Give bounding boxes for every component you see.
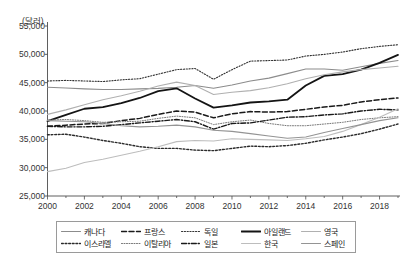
legend-label: 영국 xyxy=(324,226,338,237)
legend-swatch-일본 xyxy=(181,239,201,248)
legend-label: 이스라엘 xyxy=(84,238,111,249)
legend-item-영국[interactable]: 영국 xyxy=(301,226,361,237)
legend-row: 이스라엘이탈리아일본한국스페인 xyxy=(61,237,351,249)
legend-swatch-이스라엘 xyxy=(61,239,81,248)
legend-item-프랑스[interactable]: 프랑스 xyxy=(121,226,181,237)
legend-label: 일본 xyxy=(204,238,218,249)
chart-legend: 캐나다프랑스독일아일랜드영국이스라엘이탈리아일본한국스페인 xyxy=(56,221,356,253)
legend-label: 이탈리아 xyxy=(144,238,171,249)
legend-label: 독일 xyxy=(204,226,218,237)
series-line-8 xyxy=(48,109,399,172)
legend-swatch-아일랜드 xyxy=(241,227,261,236)
legend-label: 한국 xyxy=(264,238,278,249)
legend-item-이탈리아[interactable]: 이탈리아 xyxy=(121,238,181,249)
legend-item-스페인[interactable]: 스페인 xyxy=(301,238,361,249)
legend-swatch-스페인 xyxy=(301,239,321,248)
legend-swatch-한국 xyxy=(241,239,261,248)
legend-swatch-영국 xyxy=(301,227,321,236)
legend-item-이스라엘[interactable]: 이스라엘 xyxy=(61,238,121,249)
legend-label: 아일랜드 xyxy=(264,226,291,237)
legend-label: 캐나다 xyxy=(84,226,104,237)
legend-swatch-프랑스 xyxy=(121,227,141,236)
legend-swatch-독일 xyxy=(181,227,201,236)
legend-item-한국[interactable]: 한국 xyxy=(241,238,301,249)
line-chart: (달러) 55,00050,00045,00040,00035,00030,00… xyxy=(0,0,407,273)
series-line-2 xyxy=(48,45,399,82)
legend-item-독일[interactable]: 독일 xyxy=(181,226,241,237)
legend-label: 프랑스 xyxy=(144,226,164,237)
legend-item-아일랜드[interactable]: 아일랜드 xyxy=(241,226,301,237)
legend-label: 스페인 xyxy=(324,238,344,249)
legend-item-일본[interactable]: 일본 xyxy=(181,238,241,249)
series-line-7 xyxy=(48,109,399,129)
legend-swatch-이탈리아 xyxy=(121,239,141,248)
series-line-3 xyxy=(48,55,399,121)
legend-row: 캐나다프랑스독일아일랜드영국 xyxy=(61,225,351,237)
legend-swatch-캐나다 xyxy=(61,227,81,236)
series-line-9 xyxy=(48,118,399,138)
legend-item-캐나다[interactable]: 캐나다 xyxy=(61,226,121,237)
